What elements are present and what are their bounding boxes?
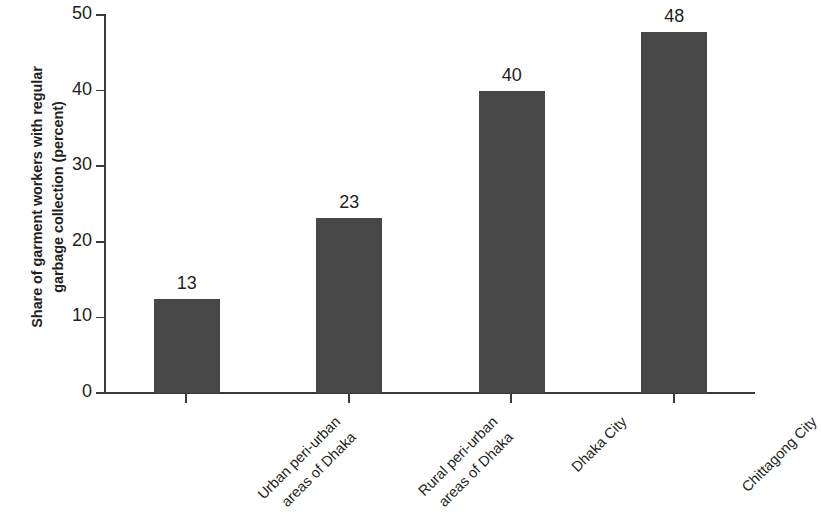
bar-value-label: 40 — [472, 65, 552, 86]
y-axis-tick-label: 40 — [0, 79, 92, 100]
bar — [154, 299, 220, 393]
y-axis-tick-label: 10 — [0, 305, 92, 326]
bar-value-label: 48 — [634, 6, 714, 27]
y-axis-title-line-2: garbage collection (percent) — [48, 101, 69, 292]
y-axis-line — [104, 14, 106, 394]
y-axis-tick-label: 50 — [0, 3, 92, 24]
x-axis-category-label: Rural peri-urbanareas of Dhaka — [414, 412, 519, 517]
x-axis-label-line: Chittagong City — [737, 412, 821, 497]
x-axis-tick — [510, 393, 512, 403]
y-axis-tick-label: 0 — [0, 381, 92, 402]
x-axis-label-line: Dhaka City — [567, 412, 633, 478]
y-axis-tick — [96, 241, 105, 243]
y-axis-tick-label: 30 — [0, 154, 92, 175]
x-axis-category-label: Urban peri-urbanareas of Dhaka — [253, 412, 361, 520]
bar-value-label: 13 — [147, 273, 227, 294]
bar — [479, 91, 545, 393]
bar-value-label: 23 — [309, 192, 389, 213]
x-axis-category-label: Dhaka City — [567, 412, 633, 478]
bar — [641, 32, 707, 393]
y-axis-tick — [96, 90, 105, 92]
y-axis-tick — [96, 14, 105, 16]
x-axis-tick — [348, 393, 350, 403]
y-axis-tick-label: 20 — [0, 230, 92, 251]
x-axis-category-label: Chittagong City — [737, 412, 821, 497]
y-axis-title-line-1: Share of garment workers with regular — [27, 66, 48, 327]
y-axis-tick — [96, 317, 105, 319]
bar — [316, 218, 382, 393]
x-axis-tick — [185, 393, 187, 403]
y-axis-tick — [96, 165, 105, 167]
y-axis-tick — [96, 392, 105, 394]
y-axis-title: Share of garment workers with regular ga… — [25, 5, 71, 389]
x-axis-tick — [673, 393, 675, 403]
